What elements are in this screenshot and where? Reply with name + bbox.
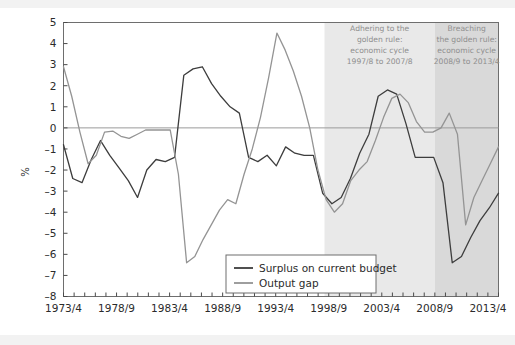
line-chart: 543210–1–2–3–4–5–6–7–8 1973/41978/91983/…: [0, 0, 515, 345]
x-tick-label: 1973/4: [45, 302, 82, 314]
x-tick-label: 1993/4: [257, 302, 294, 314]
y-tick-label: –8: [45, 290, 57, 302]
y-tick-label: –4: [45, 206, 57, 218]
x-tick-label: 1978/9: [98, 302, 135, 314]
y-axis-title: %: [20, 167, 31, 177]
legend-entry-label[interactable]: Surplus on current budget: [259, 262, 397, 274]
region-annotation-line: Adhering to the: [350, 24, 409, 33]
y-tick-label: 0: [50, 122, 57, 134]
region-annotation-line: the golden rule:: [436, 35, 496, 44]
x-tick-label: 1983/4: [151, 302, 188, 314]
y-tick-label: 2: [50, 80, 57, 92]
y-axis-ticks: 543210–1–2–3–4–5–6–7–8: [45, 16, 68, 302]
y-tick-label: –5: [45, 227, 57, 239]
chart-figure: 543210–1–2–3–4–5–6–7–8 1973/41978/91983/…: [0, 0, 515, 345]
region-annotation-line: golden rule:: [357, 35, 403, 44]
x-tick-label: 2003/4: [363, 302, 400, 314]
region-annotation-line: Breaching: [448, 24, 486, 33]
region-annotation-line: economic cycle: [350, 46, 409, 55]
y-tick-label: 1: [50, 101, 57, 113]
y-tick-label: 4: [50, 37, 57, 49]
y-tick-label: –3: [45, 185, 57, 197]
y-tick-label: 5: [50, 16, 57, 28]
x-tick-label: 1998/9: [310, 302, 347, 314]
x-tick-label: 1988/9: [204, 302, 241, 314]
y-tick-label: –7: [45, 269, 57, 281]
chart-legend[interactable]: Surplus on current budgetOutput gap: [226, 255, 397, 293]
y-tick-label: –2: [45, 164, 57, 176]
y-tick-label: –6: [45, 248, 57, 260]
y-tick-label: –1: [45, 143, 57, 155]
legend-entry-label[interactable]: Output gap: [259, 277, 319, 289]
y-tick-label: 3: [50, 58, 57, 70]
region-annotation-line: economic cycle: [437, 46, 496, 55]
x-tick-label: 2013/4: [469, 302, 506, 314]
region-annotation-line: 1997/8 to 2007/8: [347, 57, 413, 66]
y-axis-title-label: %: [20, 167, 31, 177]
region-annotation-line: 2008/9 to 2013/4: [434, 57, 500, 66]
x-tick-label: 2008/9: [416, 302, 453, 314]
